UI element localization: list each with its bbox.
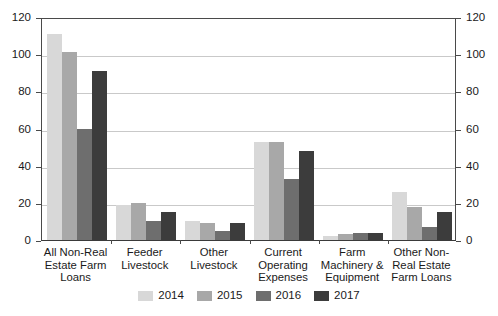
x-axis-tick [180, 240, 181, 244]
bar [353, 233, 368, 240]
legend-swatch-icon [256, 291, 271, 301]
legend-swatch-icon [314, 291, 329, 301]
legend-label: 2017 [334, 290, 360, 302]
bar [131, 203, 146, 240]
bar [422, 227, 437, 240]
legend-item[interactable]: 2014 [138, 290, 184, 302]
bar [407, 207, 422, 240]
bar [116, 205, 131, 240]
bar [299, 151, 314, 240]
category-label-line: Real Estate [381, 259, 462, 272]
chart-legend: 2014201520162017 [0, 290, 498, 302]
x-axis-tick [319, 240, 320, 244]
y-axis-right-tick-label: 80 [466, 86, 479, 98]
bar [338, 234, 353, 240]
plot-area [41, 18, 456, 241]
bar-group [250, 19, 319, 240]
bar [185, 221, 200, 240]
bar-group [111, 19, 180, 240]
x-axis-category-labels: All Non-RealEstate FarmLoansFeederLivest… [41, 246, 456, 288]
y-axis-left-tick-label: 0 [0, 235, 31, 247]
y-axis-left-tick-label: 100 [0, 49, 31, 61]
legend-label: 2014 [158, 290, 184, 302]
category-label-line: Farm Loans [381, 271, 462, 284]
category-label-line: Other Non- [381, 246, 462, 259]
bar [47, 34, 62, 240]
bar-group [388, 19, 457, 240]
bar-group [42, 19, 111, 240]
x-axis-tick [111, 240, 112, 244]
bar [146, 221, 161, 240]
y-axis-right-tick-label: 60 [466, 124, 479, 136]
bar [92, 71, 107, 240]
legend-item[interactable]: 2016 [256, 290, 302, 302]
bar [323, 236, 338, 240]
legend-label: 2016 [276, 290, 302, 302]
x-axis-tick [388, 240, 389, 244]
bar [437, 212, 452, 240]
y-axis-right-tick-label: 20 [466, 198, 479, 210]
bars-layer [42, 19, 455, 240]
y-axis-left-tick-label: 120 [0, 12, 31, 24]
bar-group [319, 19, 388, 240]
bar [215, 231, 230, 240]
bar [62, 52, 77, 240]
y-axis-left-tick [36, 241, 41, 242]
bar [77, 129, 92, 241]
y-axis-left-tick-label: 40 [0, 161, 31, 173]
y-axis-right-tick-label: 40 [466, 161, 479, 173]
y-axis-left-tick-label: 20 [0, 198, 31, 210]
category-label-line: Loans [35, 271, 116, 284]
y-axis-right-tick [456, 241, 461, 242]
bar [368, 233, 383, 240]
y-axis-left-tick-label: 80 [0, 86, 31, 98]
bar [161, 212, 176, 240]
bar [284, 179, 299, 240]
bar [200, 223, 215, 240]
legend-label: 2015 [217, 290, 243, 302]
legend-swatch-icon [197, 291, 212, 301]
legend-item[interactable]: 2017 [314, 290, 360, 302]
bar [269, 142, 284, 240]
x-axis-category-label: Other Non-Real EstateFarm Loans [381, 246, 462, 284]
y-axis-right-tick-label: 120 [466, 12, 485, 24]
bar-group [180, 19, 249, 240]
legend-item[interactable]: 2015 [197, 290, 243, 302]
legend-swatch-icon [138, 291, 153, 301]
bar [392, 192, 407, 240]
bar [230, 223, 245, 240]
bar-chart: 020406080100120 020406080100120 All Non-… [0, 0, 498, 316]
y-axis-left-tick-label: 60 [0, 124, 31, 136]
y-axis-right-tick-label: 100 [466, 49, 485, 61]
x-axis-tick [250, 240, 251, 244]
y-axis-right-tick-label: 0 [466, 235, 472, 247]
bar [254, 142, 269, 240]
